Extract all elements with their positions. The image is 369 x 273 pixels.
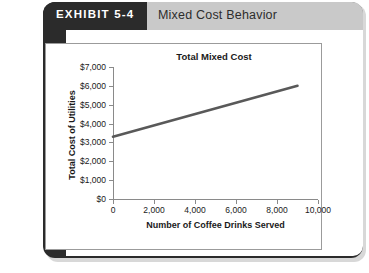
y-axis-tick	[109, 161, 113, 162]
x-axis-tick-label: 0	[111, 205, 116, 215]
y-axis-tick	[109, 105, 113, 106]
x-axis-tick	[154, 200, 155, 204]
y-axis-line	[113, 67, 114, 200]
x-axis-tick	[318, 200, 319, 204]
y-axis-tick	[109, 180, 113, 181]
x-axis-tick-label: 8,000	[266, 205, 287, 215]
y-axis-tick	[109, 67, 113, 68]
y-axis-tick-label: $4,000	[80, 119, 106, 129]
y-axis-tick-label: $7,000	[80, 62, 106, 72]
x-axis-tick-label: 2,000	[143, 205, 164, 215]
y-axis-tick-label: $3,000	[80, 137, 106, 147]
x-axis-tick-label: 6,000	[225, 205, 246, 215]
exhibit-figure: Mixed Cost Behavior EXHIBIT 5-4 Total Mi…	[0, 0, 369, 273]
header-title: Mixed Cost Behavior	[158, 8, 277, 22]
y-axis-tick-label: $2,000	[80, 156, 106, 166]
x-axis-tick-label: 10,000	[305, 205, 331, 215]
x-axis-tick	[236, 200, 237, 204]
y-axis-tick-label: $0	[97, 194, 106, 204]
y-axis-tick-label: $5,000	[80, 100, 106, 110]
x-axis-tick-label: 4,000	[184, 205, 205, 215]
y-axis-tick	[109, 142, 113, 143]
chart-title: Total Mixed Cost	[113, 51, 315, 62]
y-axis-tick	[109, 86, 113, 87]
x-axis-tick	[195, 200, 196, 204]
y-axis-title: Total Cost of Utilities	[67, 60, 77, 210]
y-axis-tick-label: $1,000	[80, 175, 106, 185]
exhibit-tab-label: EXHIBIT 5-4	[56, 8, 134, 20]
y-axis-tick-label: $6,000	[80, 81, 106, 91]
x-axis-tick	[277, 200, 278, 204]
y-axis-tick	[109, 124, 113, 125]
x-axis-title: Number of Coffee Drinks Served	[113, 220, 318, 230]
x-axis-tick	[113, 200, 114, 204]
x-axis-line	[113, 199, 318, 200]
